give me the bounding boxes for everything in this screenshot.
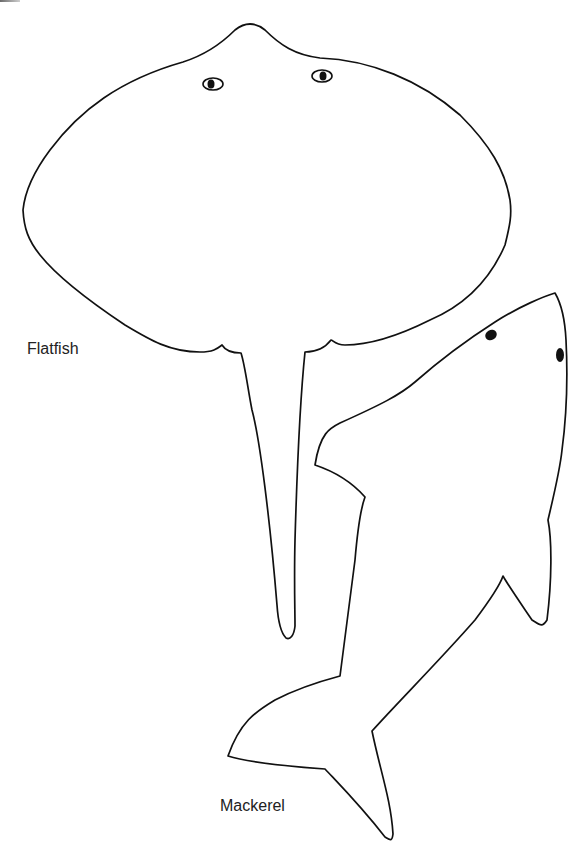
flatfish-drawing	[23, 24, 511, 639]
flatfish-label: Flatfish	[27, 340, 79, 358]
mackerel-drawing	[228, 293, 567, 840]
flatfish-left-pupil-icon	[208, 80, 215, 89]
flatfish-body-outline	[23, 24, 511, 639]
mackerel-body-outline	[228, 293, 567, 840]
mackerel-label: Mackerel	[220, 797, 285, 815]
flatfish-right-pupil-icon	[320, 72, 327, 81]
mackerel-nostril-icon	[556, 348, 564, 362]
fish-drawing-canvas	[0, 0, 581, 857]
mackerel-eye-icon	[483, 328, 498, 343]
